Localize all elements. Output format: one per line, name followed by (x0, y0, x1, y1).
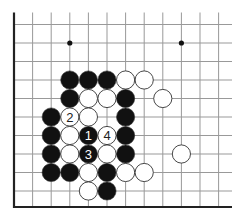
stone-disc-icon (98, 89, 116, 107)
white-stone (79, 89, 97, 107)
white-stone (172, 145, 190, 163)
black-stone (61, 89, 79, 107)
white-stone (79, 108, 97, 126)
black-stone (98, 182, 116, 200)
stone-disc-icon (42, 163, 60, 181)
stone-disc-icon (98, 145, 116, 163)
black-stone (117, 89, 135, 107)
black-stone: 3 (79, 145, 97, 163)
stone-disc-icon (117, 163, 135, 181)
white-stone: 4 (98, 126, 116, 144)
black-stone (117, 145, 135, 163)
stone-disc-icon (98, 163, 116, 181)
stone-disc-icon (117, 126, 135, 144)
stone-disc-icon (79, 182, 97, 200)
white-stone (79, 182, 97, 200)
white-stone (135, 71, 153, 89)
stone-disc-icon (117, 145, 135, 163)
move-number-label: 3 (85, 147, 92, 162)
white-stone (117, 163, 135, 181)
stone-disc-icon (42, 108, 60, 126)
stone-disc-icon (154, 89, 172, 107)
white-stone (135, 163, 153, 181)
go-board-diagram: 2143 (0, 0, 240, 221)
stone-disc-icon (117, 89, 135, 107)
stone-disc-icon (79, 71, 97, 89)
white-stone (98, 89, 116, 107)
stone-disc-icon (117, 71, 135, 89)
white-stone (61, 126, 79, 144)
stone-disc-icon (172, 145, 190, 163)
black-stone (42, 163, 60, 181)
stone-disc-icon (98, 71, 116, 89)
white-stone (61, 145, 79, 163)
stone-disc-icon (98, 182, 116, 200)
stone-disc-icon (42, 145, 60, 163)
stone-disc-icon (61, 145, 79, 163)
black-stone (79, 71, 97, 89)
stone-disc-icon (135, 71, 153, 89)
black-stone (42, 145, 60, 163)
white-stone (154, 89, 172, 107)
black-stone (42, 108, 60, 126)
black-stone: 1 (79, 126, 97, 144)
move-number-label: 4 (103, 128, 110, 143)
white-stone (79, 163, 97, 181)
stone-disc-icon (79, 108, 97, 126)
black-stone (61, 163, 79, 181)
black-stone (117, 108, 135, 126)
black-stone (117, 126, 135, 144)
black-stone (42, 126, 60, 144)
move-number-label: 2 (66, 110, 73, 125)
move-number-label: 1 (85, 128, 92, 143)
white-stone: 2 (61, 108, 79, 126)
stone-disc-icon (61, 163, 79, 181)
black-stone (98, 163, 116, 181)
white-stone (117, 71, 135, 89)
black-stone (98, 71, 116, 89)
stone-disc-icon (42, 126, 60, 144)
white-stone (98, 145, 116, 163)
stone-disc-icon (61, 126, 79, 144)
stone-disc-icon (79, 89, 97, 107)
star-point-icon (67, 40, 72, 45)
stone-disc-icon (117, 108, 135, 126)
stone-disc-icon (135, 163, 153, 181)
stone-disc-icon (61, 89, 79, 107)
black-stone (61, 71, 79, 89)
stone-disc-icon (79, 163, 97, 181)
stone-disc-icon (61, 71, 79, 89)
star-point-icon (179, 40, 184, 45)
